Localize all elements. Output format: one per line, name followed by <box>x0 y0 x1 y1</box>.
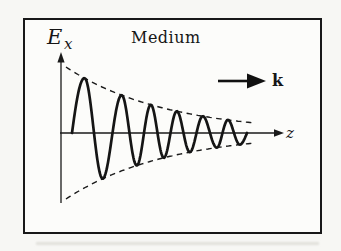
k-vector-label: k <box>272 73 283 89</box>
ex-axis-arrowhead <box>57 52 64 63</box>
k-vector-arrowhead <box>247 74 266 89</box>
scan-artifact <box>36 242 319 245</box>
ex-axis-label-subscript: x <box>64 37 72 52</box>
upper-envelope-dashed <box>66 67 254 123</box>
ex-axis-label: E <box>47 27 62 48</box>
attenuated-wave-curve <box>72 78 247 178</box>
physics-figure: E x Medium k z <box>0 0 341 251</box>
z-axis-label: z <box>286 126 294 141</box>
z-axis-arrowhead <box>274 129 284 136</box>
medium-label: Medium <box>131 30 201 46</box>
